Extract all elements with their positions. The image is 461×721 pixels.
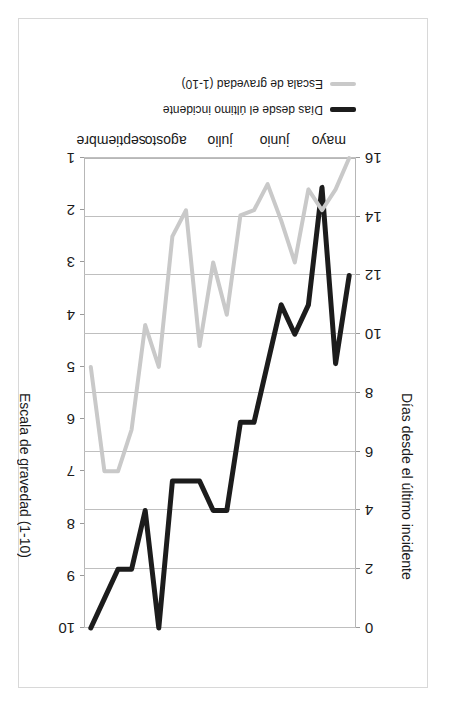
right-tick-label: 3 xyxy=(67,255,75,270)
category-label: agosto xyxy=(145,134,187,148)
left-tick-mark xyxy=(356,392,360,393)
plot-area: 0246810121416 12345678910 mayojuniojulio… xyxy=(84,158,356,628)
category-label: mayo xyxy=(312,134,346,148)
left-tick-mark xyxy=(356,157,360,158)
left-tick-mark xyxy=(356,216,360,217)
legend-item-severity: Escala de gravedad (1-10) xyxy=(84,78,356,90)
right-tick-label: 1 xyxy=(67,151,75,166)
left-tick-mark xyxy=(356,451,360,452)
left-tick-mark xyxy=(356,568,360,569)
legend-swatch-severity xyxy=(330,82,356,86)
left-tick-mark xyxy=(356,627,360,628)
left-tick-label: 16 xyxy=(365,151,382,166)
category-label: julio xyxy=(208,134,233,148)
category-label: septiembre xyxy=(77,134,146,148)
right-axis-title: Escala de gravedad (1-10) xyxy=(18,393,32,558)
right-tick-label: 2 xyxy=(67,203,75,218)
left-tick-label: 0 xyxy=(365,621,373,636)
chart-canvas: Días desde el último incidente Escala de… xyxy=(18,18,428,688)
series-line-incidents xyxy=(91,187,349,628)
right-tick-label: 4 xyxy=(67,308,75,323)
left-tick-label: 2 xyxy=(365,562,373,577)
right-tick-label: 7 xyxy=(67,464,75,479)
chart-figure: Días desde el último incidente Escala de… xyxy=(18,18,428,688)
right-tick-label: 9 xyxy=(67,569,75,584)
chart-legend: Días desde el último incidente Escala de… xyxy=(84,78,356,116)
right-tick-label: 10 xyxy=(58,621,75,636)
legend-label-severity: Escala de gravedad (1-10) xyxy=(182,78,323,90)
left-tick-label: 8 xyxy=(365,386,373,401)
left-tick-label: 14 xyxy=(365,210,382,225)
left-tick-mark xyxy=(356,275,360,276)
legend-label-incidents: Días desde el último incidente xyxy=(163,104,323,116)
left-axis-title: Días desde el último incidente xyxy=(400,393,414,580)
series-line-severity xyxy=(91,158,349,471)
right-tick-label: 5 xyxy=(67,360,75,375)
right-tick-label: 6 xyxy=(67,412,75,427)
right-tick-label: 8 xyxy=(67,517,75,532)
category-label: junio xyxy=(260,134,290,148)
left-tick-label: 4 xyxy=(365,504,373,519)
left-tick-label: 10 xyxy=(365,327,382,342)
left-tick-mark xyxy=(356,510,360,511)
left-tick-label: 12 xyxy=(365,269,382,284)
left-tick-label: 6 xyxy=(365,445,373,460)
series-lines xyxy=(84,158,356,628)
legend-swatch-incidents xyxy=(330,108,356,113)
legend-item-incidents: Días desde el último incidente xyxy=(84,104,356,116)
left-tick-mark xyxy=(356,333,360,334)
